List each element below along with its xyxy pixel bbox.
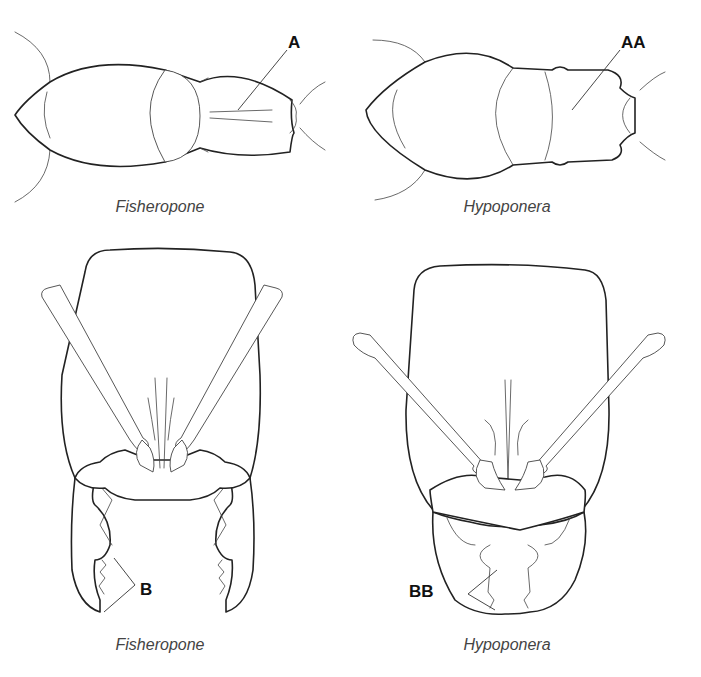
caption-fisheropone-mesosoma: Fisheropone	[116, 198, 205, 216]
label-B: B	[140, 580, 152, 600]
caption-hypoponera-head: Hypoponera	[463, 636, 550, 654]
label-A: A	[288, 33, 300, 53]
caption-hypoponera-mesosoma: Hypoponera	[463, 198, 550, 216]
fisheropone-mesosoma-drawing	[15, 32, 325, 202]
fisheropone-head-drawing	[42, 248, 283, 612]
caption-fisheropone-head: Fisheropone	[116, 636, 205, 654]
label-BB: BB	[409, 582, 434, 602]
diagram-canvas	[0, 0, 701, 677]
hypoponera-head-drawing	[353, 265, 665, 615]
hypoponera-mesosoma-drawing	[366, 40, 665, 200]
label-AA: AA	[621, 33, 646, 53]
